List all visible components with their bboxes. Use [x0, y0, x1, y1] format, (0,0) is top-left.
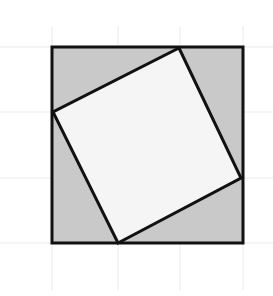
figure-canvas	[0, 0, 273, 296]
geometry-figure	[0, 0, 273, 296]
